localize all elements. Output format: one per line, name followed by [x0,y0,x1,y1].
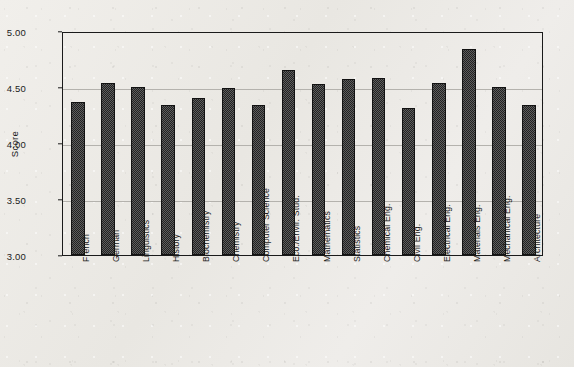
x-tick-label: Computer Science [261,188,271,262]
y-tick-label: 5.00 [0,27,26,38]
bar-chart-figure: Score 5.004.504.003.503.00 FrenchGermanL… [0,0,574,367]
y-tick-label: 3.50 [0,195,26,206]
x-tick-label: Materials Eng. [472,204,482,262]
x-tick-label: Linguistics [141,220,151,262]
y-tick-label: 4.00 [0,139,26,150]
x-tick-label: History [171,234,181,262]
bar [161,105,175,255]
x-tick-label: Architecture [532,214,542,262]
x-tick-label: Eco./Envir. Stud. [291,195,301,262]
x-tick-label: German [111,230,121,262]
x-tick-label: Electrical Eng. [442,204,452,262]
x-tick-label: Mechanical Eng. [502,196,512,262]
x-tick-label: Statistics [352,226,362,262]
plot-area [62,32,543,256]
x-tick-label: Chemical Eng. [382,204,392,262]
y-tick-label: 4.50 [0,83,26,94]
x-tick-label: Biochemistry [201,210,211,262]
x-tick-label: Mathematics [322,211,332,262]
bar [71,102,85,255]
x-tick-label: French [81,234,91,262]
x-tick-label: Chemistry [231,222,241,262]
x-tick-label: Civil Eng. [412,224,422,262]
y-tick-label: 3.00 [0,251,26,262]
